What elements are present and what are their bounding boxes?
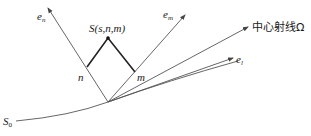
label-point-n: n — [78, 71, 84, 83]
ray-coordinate-diagram: en em el 中心射线Ω S(s,n,m) n m S0 — [0, 0, 311, 136]
el-axis-arrow — [108, 58, 233, 102]
point-s-dot — [106, 36, 110, 40]
label-point-m: m — [137, 71, 145, 83]
label-central-ray: 中心射线Ω — [252, 20, 304, 34]
s-projection-lines — [87, 38, 135, 72]
label-point-s: S(s,n,m) — [89, 22, 125, 35]
label-el: el — [236, 53, 243, 67]
label-en: en — [37, 10, 46, 24]
s0-curve — [16, 61, 238, 121]
label-s0: S0 — [3, 115, 13, 129]
label-em: em — [163, 8, 173, 22]
